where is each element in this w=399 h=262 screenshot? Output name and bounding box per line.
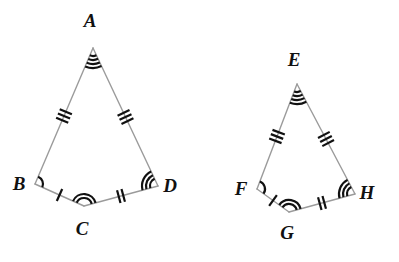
angle-arc [90, 55, 97, 56]
angle-arc [290, 102, 306, 104]
tick-group-da [118, 110, 134, 124]
vertex-label-f: F [234, 178, 248, 199]
geometry-figure: ABCD EFGH [0, 0, 399, 262]
vertex-label-b: B [12, 173, 26, 194]
vertex-label-a: A [83, 10, 97, 31]
angle-arc [293, 95, 303, 96]
angle-arcs-c [73, 194, 96, 204]
angle-arc [87, 62, 100, 64]
angle-arc [294, 91, 301, 92]
tick-mark [58, 113, 70, 118]
tick-group-ef [269, 130, 285, 143]
shape-efgh: EFGH [234, 49, 376, 243]
tick-group-he [318, 132, 334, 146]
vertex-label-e: E [287, 49, 301, 70]
geometry-canvas: ABCD EFGH [0, 0, 399, 262]
tick-group-bc [57, 189, 62, 201]
vertex-label-g: G [280, 222, 294, 243]
tick-group-fg [269, 195, 277, 206]
tick-mark [60, 109, 72, 114]
vertex-label-h: H [359, 182, 376, 203]
vertex-label-c: C [76, 218, 89, 239]
tick-mark [57, 189, 62, 201]
tick-mark [56, 118, 68, 123]
tick-group-ab [56, 109, 72, 123]
vertex-label-d: D [162, 175, 177, 196]
angle-arc [85, 66, 101, 68]
angle-arc [88, 59, 98, 60]
angle-arcs-g [279, 200, 300, 210]
shape-abcd: ABCD [12, 10, 177, 239]
angle-arc [291, 98, 304, 100]
tick-mark [269, 195, 277, 206]
